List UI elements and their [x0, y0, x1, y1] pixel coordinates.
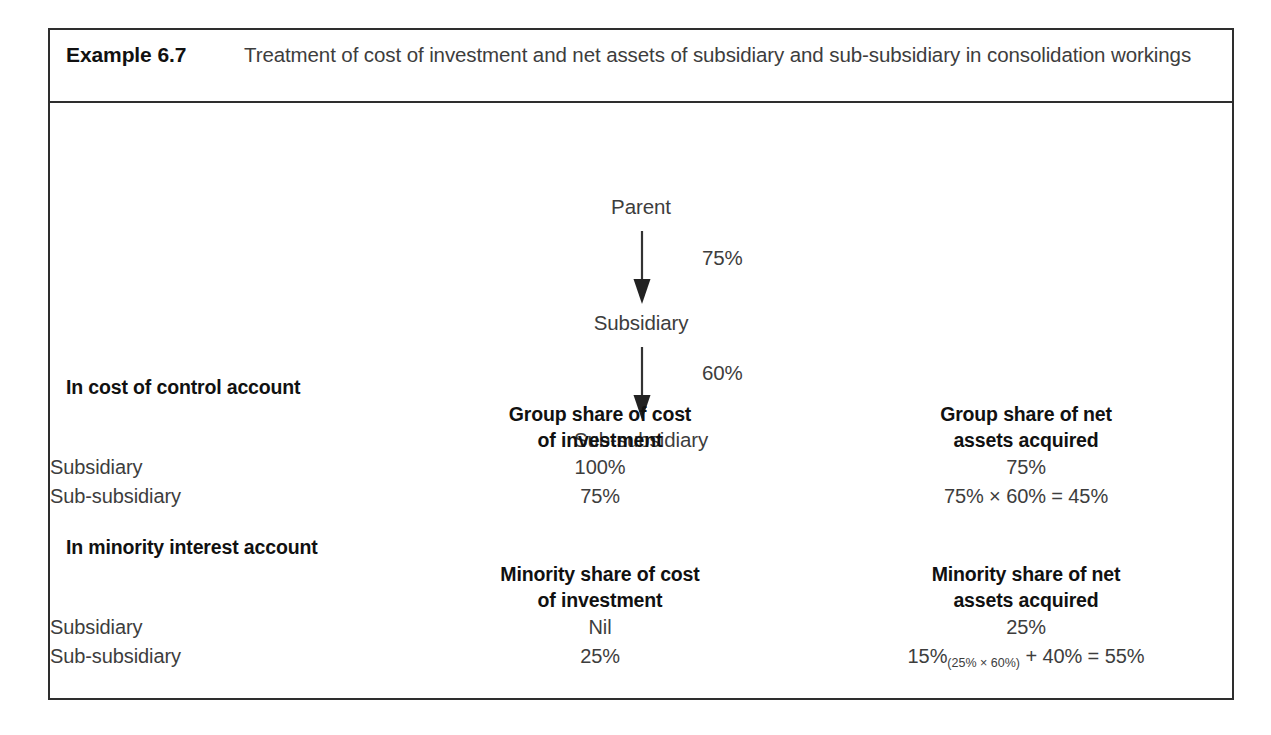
- minority-interest-table-body: Subsidiary Nil 25% Sub-subsidiary 25% 15…: [50, 613, 1232, 674]
- header-line-1: Minority share of cost: [380, 561, 820, 587]
- row-value-group-share-cost: 100%: [380, 453, 820, 482]
- example-header: Example 6.7 Treatment of cost of investm…: [50, 30, 1232, 103]
- row-value-minority-share-net-assets: 25%: [820, 613, 1232, 642]
- row-value-minority-share-net-assets-formula: 15%(25% × 60%) + 40% = 55%: [820, 642, 1232, 674]
- example-title: Treatment of cost of investment and net …: [244, 41, 1208, 68]
- table-row: Subsidiary Nil 25%: [50, 613, 1232, 642]
- row-value-group-share-net-assets: 75% × 60% = 45%: [820, 482, 1232, 511]
- row-value-group-share-cost: 75%: [380, 482, 820, 511]
- arrow-head-parent-subsidiary: [634, 279, 651, 304]
- row-value-minority-share-cost: 25%: [380, 642, 820, 674]
- section-heading-cost-of-control: In cost of control account: [66, 375, 1232, 399]
- section-heading-minority-interest: In minority interest account: [66, 535, 1232, 559]
- formula-subscript: (25% × 60%): [947, 656, 1020, 670]
- header-line-2: assets acquired: [820, 427, 1232, 453]
- row-label-sub-subsidiary: Sub-subsidiary: [50, 642, 380, 674]
- cost-of-control-table-head: Group share of cost of investment Group …: [50, 401, 1232, 453]
- row-label-subsidiary: Subsidiary: [50, 453, 380, 482]
- table-row: Sub-subsidiary 75% 75% × 60% = 45%: [50, 482, 1232, 511]
- cost-of-control-table-body: Subsidiary 100% 75% Sub-subsidiary 75% 7…: [50, 453, 1232, 511]
- section-minority-interest: In minority interest account Minority sh…: [50, 535, 1232, 674]
- minority-interest-table: Minority share of cost of investment Min…: [50, 561, 1232, 674]
- example-box: Example 6.7 Treatment of cost of investm…: [48, 28, 1234, 700]
- header-cell-group-share-cost: Group share of cost of investment: [380, 401, 820, 453]
- header-line-2: assets acquired: [820, 587, 1232, 613]
- example-page: Example 6.7 Treatment of cost of investm…: [0, 0, 1271, 735]
- row-value-minority-share-cost: Nil: [380, 613, 820, 642]
- header-cell-minority-share-net-assets: Minority share of net assets acquired: [820, 561, 1232, 613]
- diagram-node-parent: Parent: [50, 195, 1232, 219]
- header-cell-blank: [50, 561, 380, 613]
- row-value-group-share-net-assets: 75%: [820, 453, 1232, 482]
- ownership-hierarchy-diagram: Parent 75% Subsidiary 60% Sub-subsidiary: [50, 103, 1232, 371]
- table-header-row: Minority share of cost of investment Min…: [50, 561, 1232, 613]
- header-line-1: Minority share of net: [820, 561, 1232, 587]
- header-cell-blank: [50, 401, 380, 453]
- header-line-2: of investment: [380, 427, 820, 453]
- table-row: Subsidiary 100% 75%: [50, 453, 1232, 482]
- formula-prefix: 15%: [908, 645, 948, 667]
- header-line-1: Group share of net: [820, 401, 1232, 427]
- header-line-2: of investment: [380, 587, 820, 613]
- table-row: Sub-subsidiary 25% 15%(25% × 60%) + 40% …: [50, 642, 1232, 674]
- header-cell-minority-share-cost: Minority share of cost of investment: [380, 561, 820, 613]
- formula-suffix: + 40% = 55%: [1020, 645, 1144, 667]
- table-header-row: Group share of cost of investment Group …: [50, 401, 1232, 453]
- example-number-label: Example 6.7: [66, 41, 244, 69]
- minority-interest-table-head: Minority share of cost of investment Min…: [50, 561, 1232, 613]
- section-cost-of-control: In cost of control account Group share o…: [50, 375, 1232, 511]
- header-cell-group-share-net-assets: Group share of net assets acquired: [820, 401, 1232, 453]
- header-line-1: Group share of cost: [380, 401, 820, 427]
- row-label-subsidiary: Subsidiary: [50, 613, 380, 642]
- example-body: Parent 75% Subsidiary 60% Sub-subsidiary…: [50, 103, 1232, 698]
- row-label-sub-subsidiary: Sub-subsidiary: [50, 482, 380, 511]
- cost-of-control-table: Group share of cost of investment Group …: [50, 401, 1232, 511]
- edge-label-parent-subsidiary: 75%: [702, 246, 743, 270]
- diagram-node-subsidiary: Subsidiary: [50, 311, 1232, 335]
